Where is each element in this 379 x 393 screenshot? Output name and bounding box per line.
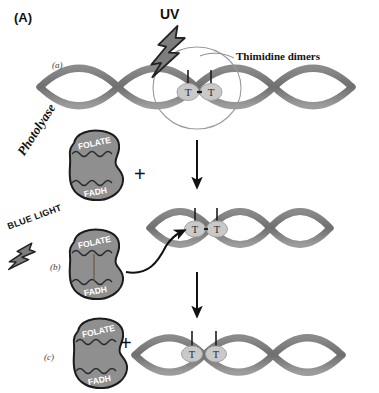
plus-sign-lower: +: [120, 332, 132, 355]
step-label-c: (c): [44, 352, 54, 362]
plus-sign-upper: +: [134, 163, 146, 186]
blue-light-lightning-bolt-icon: [6, 238, 38, 276]
photolyase-enzyme-activated: FOLATE FADH: [70, 230, 124, 300]
uv-label: UV: [160, 6, 179, 22]
dimer-caption-leader: [200, 53, 234, 58]
photoreactivation-diagram: T T FOLATE FADH T T FOLATE FADH: [0, 0, 379, 393]
base-letter-left: T: [192, 224, 199, 235]
dna-backbone-2: [135, 338, 342, 373]
step-label-a: (a): [52, 60, 63, 70]
dna-backbone-1: [135, 338, 342, 373]
arrow-enzyme-to-dimer: [126, 232, 181, 273]
dna-strand-panel-c: [135, 338, 342, 373]
step-label-b: (b): [50, 262, 61, 272]
dna-backbone-1: [150, 212, 330, 245]
base-letter-left: T: [189, 349, 196, 360]
base-letter-left: T: [185, 86, 192, 98]
thimidine-dimers-label: Thimidine dimers: [236, 50, 320, 62]
base-letter-right: T: [213, 349, 220, 360]
base-letter-right: T: [208, 86, 215, 98]
base-letter-right: T: [214, 224, 221, 235]
dna-backbone-2: [150, 212, 330, 245]
photolyase-enzyme-free: FOLATE FADH: [70, 131, 124, 201]
panel-letter-A: (A): [14, 10, 32, 25]
dna-strand-panel-b: [150, 212, 330, 245]
